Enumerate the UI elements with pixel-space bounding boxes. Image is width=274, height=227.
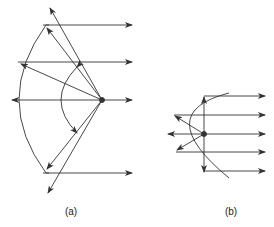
panel-a	[12, 8, 132, 193]
panel-b	[168, 93, 265, 178]
reflector-diagram	[0, 0, 274, 227]
parabolic-reflector	[190, 93, 230, 178]
panel-b-label: (b)	[225, 206, 237, 217]
spherical-reflector-arc	[19, 25, 46, 173]
panel-a-label: (a)	[65, 206, 77, 217]
